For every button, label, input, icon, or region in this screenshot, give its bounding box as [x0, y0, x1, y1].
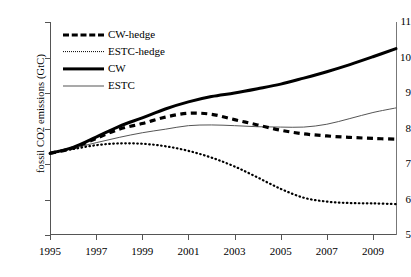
legend-swatch-cw	[62, 63, 104, 75]
series-line-estc	[50, 108, 396, 153]
legend-item-estc: ESTC	[62, 77, 212, 94]
legend-item-cw: CW	[62, 60, 212, 77]
legend-item-estc-hedge: ESTC-hedge	[62, 43, 212, 60]
legend-label-cw-hedge: CW-hedge	[108, 29, 155, 40]
legend-label-estc: ESTC	[108, 80, 135, 91]
legend-label-estc-hedge: ESTC-hedge	[108, 46, 165, 57]
legend-swatch-cw-hedge	[62, 29, 104, 41]
chart-legend: CW-hedge ESTC-hedge CW ESTC	[62, 26, 212, 94]
series-line-estc-hedge	[50, 143, 396, 204]
legend-item-cw-hedge: CW-hedge	[62, 26, 212, 43]
chart-container: fossil CO2 emissions (GtC) 567891011 199…	[0, 0, 411, 277]
legend-label-cw: CW	[108, 63, 126, 74]
legend-swatch-estc-hedge	[62, 46, 104, 58]
legend-swatch-estc	[62, 80, 104, 92]
